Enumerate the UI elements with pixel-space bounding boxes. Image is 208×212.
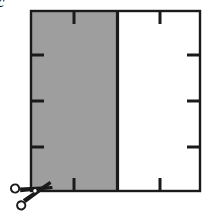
- geometry-diagram: [0, 0, 208, 212]
- scissors-handle-upper: [10, 183, 21, 194]
- figure-container: c: [0, 0, 208, 212]
